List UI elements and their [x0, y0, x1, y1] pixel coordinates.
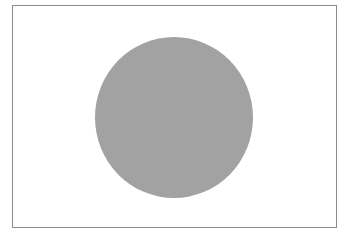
flag-disc: [95, 37, 253, 198]
